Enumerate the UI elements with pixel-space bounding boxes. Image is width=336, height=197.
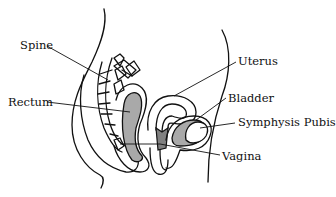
label-uterus: Uterus — [238, 56, 278, 68]
label-rectum: Rectum — [8, 97, 53, 109]
leader-spine — [47, 46, 108, 80]
back-outline — [72, 9, 105, 188]
leader-rectum — [47, 102, 130, 112]
leader-bladder — [196, 98, 226, 120]
label-bladder: Bladder — [228, 93, 274, 105]
label-spine: Spine — [20, 40, 53, 52]
label-vagina: Vagina — [222, 151, 261, 163]
label-symphysis-pubis: Symphysis Pubis — [238, 117, 336, 129]
